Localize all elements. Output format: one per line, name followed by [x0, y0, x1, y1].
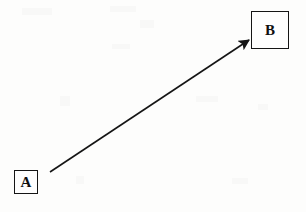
node-box-a[interactable]: A: [14, 170, 38, 194]
node-label-b: B: [265, 23, 275, 38]
node-box-b[interactable]: B: [251, 11, 289, 49]
diagram-canvas: A B: [0, 0, 306, 212]
node-label-a: A: [21, 175, 32, 190]
edge-a-to-b: [50, 40, 249, 172]
